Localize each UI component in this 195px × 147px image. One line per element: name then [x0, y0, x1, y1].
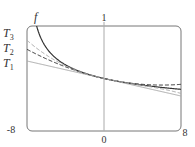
label-f: f [34, 10, 39, 24]
x-tick-label-max: 8 [183, 127, 188, 138]
label-t1: T1 [3, 56, 14, 72]
x-tick-label-min: -8 [7, 124, 15, 135]
y-tick-label-top: 1 [102, 12, 107, 23]
label-t3: T3 [3, 26, 14, 42]
x-tick-label-zero: 0 [102, 134, 107, 145]
chart: fT1T2T3-8081 [0, 0, 195, 147]
label-t2: T2 [3, 41, 14, 57]
